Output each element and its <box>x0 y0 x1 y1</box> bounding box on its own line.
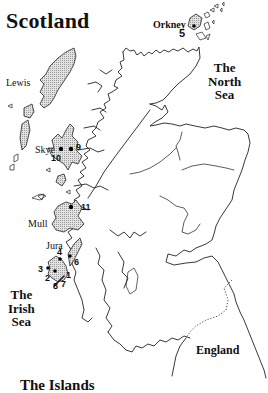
lewis-island <box>40 48 76 108</box>
marker-label-7: 7 <box>61 280 66 289</box>
uist-island <box>24 104 34 118</box>
map-title: Scotland <box>6 10 90 32</box>
north-sea-line-3: Sea <box>208 88 241 102</box>
mainland-coastline <box>123 47 266 378</box>
marker-label-2: 2 <box>45 274 50 283</box>
marker-dot-4 <box>58 257 62 261</box>
irish-sea-line-2: Irish <box>8 302 35 316</box>
label-mull: Mull <box>28 219 47 229</box>
label-irish-sea: The Irish Sea <box>8 288 35 329</box>
river-4 <box>160 196 200 234</box>
marker-label-8: 8 <box>53 282 58 291</box>
irish-sea-line-1: The <box>8 288 35 302</box>
marker-label-3: 3 <box>38 265 43 274</box>
mull-island <box>52 200 84 232</box>
marker-label-5: 5 <box>179 28 185 39</box>
border-line <box>186 280 232 338</box>
irish-sea-line-3: Sea <box>8 315 35 329</box>
marker-dot-9 <box>69 147 73 151</box>
river-1 <box>176 132 182 160</box>
england-coast-west <box>172 338 186 376</box>
river-3 <box>130 148 176 174</box>
arran <box>126 268 138 294</box>
map-caption: The Islands <box>20 378 95 393</box>
label-lewis: Lewis <box>6 78 30 88</box>
uist-south-island <box>20 120 30 150</box>
marker-dot-6 <box>68 254 72 258</box>
marker-dot-5 <box>192 24 196 28</box>
marker-dot-2 <box>53 269 57 273</box>
kintyre-clyde-coastline <box>70 230 190 352</box>
marker-dot-10 <box>59 147 63 151</box>
marker-label-10: 10 <box>51 154 61 163</box>
rum-island <box>56 174 66 186</box>
marker-dot-3 <box>46 266 50 270</box>
north-sea-line-1: The <box>208 61 241 75</box>
north-sea-line-2: North <box>208 75 241 89</box>
river-2 <box>182 164 234 170</box>
orkney-mainland <box>188 14 202 30</box>
label-north-sea: The North Sea <box>208 61 241 102</box>
barra-islets <box>8 104 18 170</box>
marker-label-11: 11 <box>81 203 91 212</box>
marker-label-9: 9 <box>76 143 81 152</box>
marker-label-4: 4 <box>57 248 62 257</box>
marker-label-1: 1 <box>66 271 71 280</box>
label-england: England <box>196 344 239 356</box>
marker-dot-11 <box>69 205 73 209</box>
marker-label-6: 6 <box>74 258 79 267</box>
